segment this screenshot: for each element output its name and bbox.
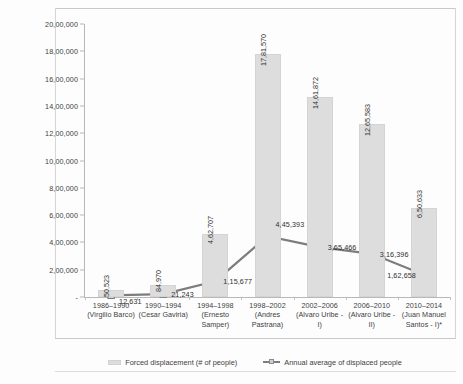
x-axis-tick-mark [294, 297, 295, 300]
y-axis-tick-mark [80, 215, 84, 216]
x-axis-category-label: 2006–2010(Alvaro Uribe - II) [346, 301, 398, 329]
category-president: (Cesar Gaviria) [137, 310, 189, 319]
bar-value-label: 50,523 [102, 275, 111, 297]
x-axis-tick-mark [85, 297, 86, 300]
x-axis-category-label: 2010–2014(Juan Manuel Santos - I)* [398, 301, 450, 329]
y-axis-tick-label: 4,00,000 [0, 238, 78, 247]
line-marker-icon [263, 358, 280, 366]
category-period: 1990–1994 [137, 301, 189, 310]
category-president: (Alvaro Uribe - I) [294, 310, 346, 329]
y-axis-tick-label: 14,00,000 [0, 101, 78, 110]
bar-forced-displacement [307, 97, 333, 297]
category-period: 2006–2010 [346, 301, 398, 310]
bar-forced-displacement [359, 124, 385, 297]
chart-legend: Forced displacement (# of people) Annual… [55, 355, 455, 369]
line-value-label: 1,62,658 [387, 270, 416, 279]
x-axis-tick-mark [346, 297, 347, 300]
legend-item-annual-average: Annual average of displaced people [263, 358, 402, 367]
y-axis-tick-mark [80, 297, 84, 298]
x-axis-category-label: 1990–1994(Cesar Gaviria) [137, 301, 189, 320]
x-axis-category-label: 2002–2006(Alvaro Uribe - I) [294, 301, 346, 329]
chart-frame-left-border [55, 8, 56, 338]
x-axis-category-label: 1994–1998(Ernesto Samper) [189, 301, 241, 329]
y-axis-tick-label: 20,00,000 [0, 20, 78, 29]
category-president: (Andres Pastrana) [241, 310, 293, 329]
line-value-label: 12,631 [119, 297, 142, 306]
y-axis-tick-label: 2,00,000 [0, 265, 78, 274]
chart-frame-right-border [455, 8, 456, 338]
y-axis-tick-mark [80, 51, 84, 52]
y-axis-tick-mark [80, 105, 84, 106]
line-value-label: 3,16,396 [380, 249, 409, 258]
x-axis-tick-mark [398, 297, 399, 300]
bar-value-label: 6,50,633 [415, 190, 424, 218]
bar-value-label: 4,62,707 [206, 216, 215, 244]
category-period: 2010–2014 [398, 301, 450, 310]
x-axis-tick-mark [241, 297, 242, 300]
bar-forced-displacement [255, 54, 281, 297]
line-value-label: 4,45,393 [276, 220, 305, 229]
y-axis-tick-mark [80, 24, 84, 25]
category-president: (Alvaro Uribe - II) [346, 310, 398, 329]
legend-label-annual-average: Annual average of displaced people [284, 358, 402, 367]
y-axis-tick-mark [80, 187, 84, 188]
x-axis-category-label: 1998–2002(Andres Pastrana) [241, 301, 293, 329]
chart-container: 50,52384,9704,62,70717,81,57014,61,87212… [0, 0, 463, 384]
y-axis-tick-label: 18,00,000 [0, 47, 78, 56]
category-president: (Juan Manuel Santos - I)* [398, 310, 450, 329]
bar-value-label: 14,61,872 [311, 77, 320, 109]
category-president: (Virgilio Barco) [85, 310, 137, 319]
y-axis-tick-label: 12,00,000 [0, 129, 78, 138]
bar-value-label: 84,970 [154, 270, 163, 292]
chart-frame-bottom-border [55, 338, 456, 339]
y-axis-tick-label: 8,00,000 [0, 183, 78, 192]
bar-value-label: 17,81,570 [259, 34, 268, 66]
y-axis-tick-label: 6,00,000 [0, 211, 78, 220]
category-period: 1998–2002 [241, 301, 293, 310]
line-value-label: 3,65,466 [328, 243, 357, 252]
y-axis-tick-label: 10,00,000 [0, 156, 78, 165]
category-period: 2002–2006 [294, 301, 346, 310]
legend-label-forced-displacement: Forced displacement (# of people) [125, 358, 237, 367]
y-axis-tick-label: 16,00,000 [0, 74, 78, 83]
x-axis-tick-mark [450, 297, 451, 300]
y-axis-tick-label: - [0, 293, 78, 302]
line-value-label: 1,15,677 [223, 277, 252, 286]
line-value-label: 21,243 [171, 290, 194, 299]
legend-item-forced-displacement: Forced displacement (# of people) [108, 358, 237, 367]
category-president: (Ernesto Samper) [189, 310, 241, 329]
y-axis-tick-mark [80, 78, 84, 79]
y-axis-tick-mark [80, 160, 84, 161]
y-axis-tick-mark [80, 242, 84, 243]
bar-value-label: 12,65,583 [363, 104, 372, 136]
category-period: 1994–1998 [189, 301, 241, 310]
chart-frame-top-border [55, 8, 455, 9]
bar-swatch-icon [108, 360, 121, 365]
y-axis-tick-mark [80, 269, 84, 270]
bar-forced-displacement [411, 208, 437, 297]
legend-divider [55, 371, 456, 372]
y-axis-tick-mark [80, 133, 84, 134]
